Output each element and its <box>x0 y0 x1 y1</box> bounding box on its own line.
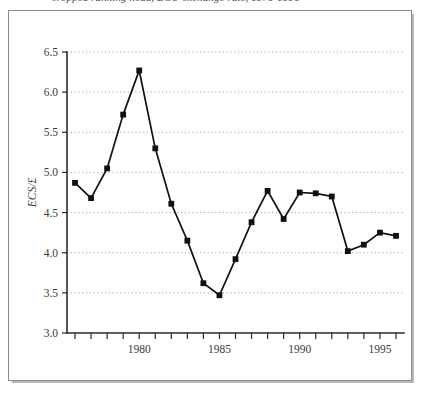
y-axis-tick-label: 6.0 <box>44 86 59 98</box>
data-point-marker <box>120 112 126 118</box>
data-point-marker <box>72 180 78 186</box>
data-point-marker <box>329 194 335 200</box>
data-point-marker <box>249 219 255 225</box>
y-axis-tick-label: 5.5 <box>44 126 59 138</box>
line-chart: 3.03.54.04.55.05.56.06.5 198019851990199… <box>0 0 421 393</box>
data-point-marker <box>345 248 351 254</box>
y-axis-tick-labels-group: 3.03.54.04.55.05.56.06.5 <box>44 46 59 339</box>
data-point-marker <box>217 292 223 298</box>
x-axis-tick-label: 1985 <box>208 343 231 355</box>
data-point-marker <box>313 190 319 196</box>
chart-plot-area: 3.03.54.04.55.05.56.06.5 198019851990199… <box>0 0 421 393</box>
y-axis-tick-label: 5.0 <box>44 166 59 178</box>
x-axis-tick-label: 1990 <box>288 343 311 355</box>
data-point-marker <box>168 201 174 207</box>
x-axis-tick-labels-group: 1980198519901995 <box>128 343 392 355</box>
y-axis-tick-label: 4.5 <box>44 207 59 219</box>
y-axis-title: ECS/£ <box>26 178 38 209</box>
x-axis-tick-label: 1980 <box>128 343 151 355</box>
data-point-marker <box>88 195 94 201</box>
y-axis-tick-label: 3.0 <box>44 327 59 339</box>
data-point-marker <box>136 68 142 74</box>
data-point-marker <box>201 280 207 286</box>
x-axis-ticks-group <box>75 333 396 339</box>
data-point-marker <box>281 216 287 222</box>
data-point-marker <box>265 188 271 194</box>
y-axis-tick-label: 3.5 <box>44 287 59 299</box>
data-point-marker <box>297 190 303 196</box>
data-point-marker <box>361 242 367 248</box>
y-axis-tick-label: 6.5 <box>44 46 59 58</box>
data-point-markers-group <box>72 68 399 299</box>
y-axis-tick-label: 4.0 <box>44 247 59 259</box>
data-point-marker <box>184 238 190 244</box>
x-axis-tick-label: 1995 <box>368 343 391 355</box>
data-point-marker <box>377 230 383 236</box>
data-point-marker <box>393 233 399 239</box>
data-point-marker <box>233 256 239 262</box>
data-point-marker <box>104 166 110 172</box>
data-point-marker <box>152 145 158 151</box>
